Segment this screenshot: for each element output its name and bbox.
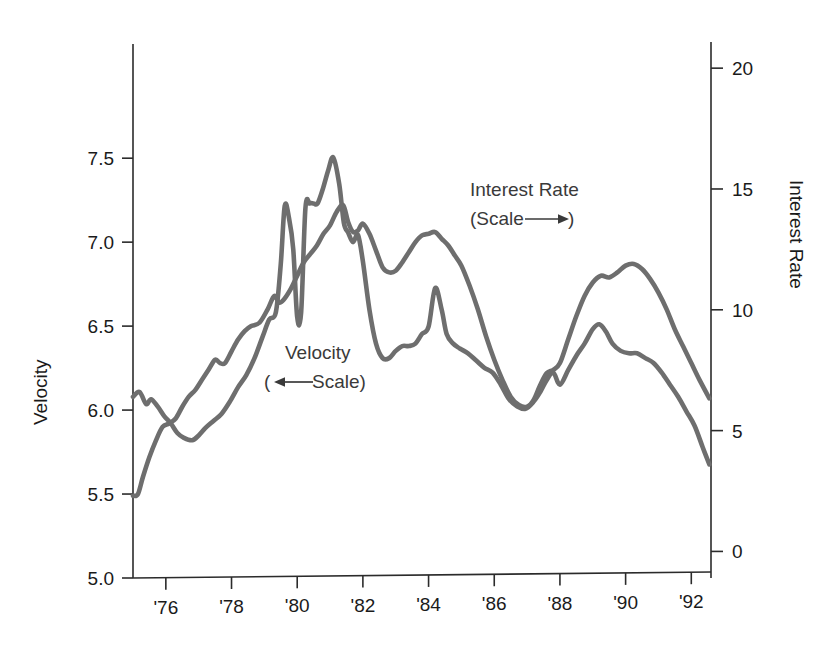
interest-rate-annotation: Interest Rate (Scale )	[470, 179, 579, 229]
right-axis-tick-label: 20	[732, 58, 753, 79]
left-axis-tick-label: 5.5	[88, 484, 114, 505]
left-axis-tick-label: 6.5	[88, 316, 114, 337]
interest-rate-annotation-line2-pre: (Scale	[470, 208, 524, 229]
x-axis-tick-label: '76	[153, 597, 178, 618]
right-axis-tick-label: 10	[732, 300, 753, 321]
axes-layer	[122, 42, 723, 590]
left-axis-tick-label: 7.5	[88, 148, 114, 169]
chart-canvas: 5.05.56.06.57.07.505101520'76'78'80'82'8…	[0, 0, 821, 660]
bottom-axis-line	[133, 572, 711, 578]
velocity-annotation-line1: Velocity	[285, 342, 351, 363]
left-axis-tick-label: 7.0	[88, 232, 114, 253]
x-axis-tick-label: '78	[219, 596, 244, 617]
interest-rate-annotation-line1: Interest Rate	[470, 179, 579, 200]
left-arrow-head-icon	[274, 377, 285, 387]
x-axis-tick-label: '86	[482, 593, 507, 614]
velocity-annotation-line2-post: Scale)	[312, 371, 366, 392]
x-axis-tick-label: '80	[285, 595, 310, 616]
x-axis-tick-label: '92	[679, 591, 704, 612]
velocity-annotation: Velocity ( Scale)	[264, 342, 366, 392]
right-axis-tick-label: 0	[732, 541, 743, 562]
left-axis-tick-label: 5.0	[88, 568, 114, 589]
right-axis-tick-label: 5	[732, 421, 743, 442]
left-axis-title: Velocity	[30, 359, 51, 425]
x-axis-tick-label: '82	[351, 595, 376, 616]
right-axis-title: Interest Rate	[786, 180, 807, 289]
series-line-interest-rate	[133, 157, 709, 464]
x-axis-tick-label: '90	[613, 592, 638, 613]
x-axis-tick-label: '84	[416, 594, 441, 615]
x-axis-tick-label: '88	[548, 593, 573, 614]
velocity-annotation-line2-pre: (	[264, 371, 271, 392]
right-axis-tick-label: 15	[732, 179, 753, 200]
left-axis-tick-label: 6.0	[88, 400, 114, 421]
chart-figure: 5.05.56.06.57.07.505101520'76'78'80'82'8…	[0, 0, 821, 660]
series-layer	[133, 157, 709, 496]
interest-rate-annotation-line2-post: )	[568, 208, 574, 229]
